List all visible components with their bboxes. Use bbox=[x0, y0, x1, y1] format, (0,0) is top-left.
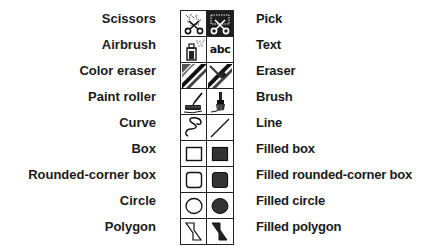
tool-airbrush[interactable] bbox=[181, 37, 207, 63]
brush-icon bbox=[208, 90, 232, 114]
tool-circle[interactable] bbox=[181, 193, 207, 219]
polygon-icon bbox=[182, 220, 206, 244]
line-icon bbox=[208, 116, 232, 140]
label-pick: Pick bbox=[256, 9, 423, 35]
tool-polygon[interactable] bbox=[181, 219, 207, 245]
label-box: Box bbox=[0, 139, 156, 165]
circle-icon bbox=[182, 194, 206, 218]
tool-pick[interactable] bbox=[207, 11, 233, 37]
eraser-icon bbox=[208, 64, 232, 88]
label-scissors: Scissors bbox=[0, 9, 156, 35]
tool-filled-polygon[interactable] bbox=[207, 219, 233, 245]
label-filled-rounded-corner-box: Filled rounded-corner box bbox=[256, 165, 423, 191]
airbrush-icon bbox=[182, 38, 206, 62]
tool-color-eraser[interactable] bbox=[181, 63, 207, 89]
paint-roller-icon bbox=[182, 90, 206, 114]
filled-box-icon bbox=[208, 142, 232, 166]
paint-toolbox: abc bbox=[180, 10, 234, 245]
tool-rounded-corner-box[interactable] bbox=[181, 167, 207, 193]
tool-filled-circle[interactable] bbox=[207, 193, 233, 219]
tool-filled-rounded-corner-box[interactable] bbox=[207, 167, 233, 193]
label-filled-circle: Filled circle bbox=[256, 191, 423, 217]
filled-circle-icon bbox=[208, 194, 232, 218]
label-curve: Curve bbox=[0, 113, 156, 139]
tool-line[interactable] bbox=[207, 115, 233, 141]
tool-brush[interactable] bbox=[207, 89, 233, 115]
label-text: Text bbox=[256, 35, 423, 61]
scissors-icon bbox=[182, 12, 206, 36]
box-icon bbox=[182, 142, 206, 166]
label-eraser: Eraser bbox=[256, 61, 423, 87]
tool-eraser[interactable] bbox=[207, 63, 233, 89]
filled-rounded-box-icon bbox=[208, 168, 232, 192]
curve-icon bbox=[182, 116, 206, 140]
tool-box[interactable] bbox=[181, 141, 207, 167]
label-paint-roller: Paint roller bbox=[0, 87, 156, 113]
label-color-eraser: Color eraser bbox=[0, 61, 156, 87]
left-labels: Scissors Airbrush Color eraser Paint rol… bbox=[0, 9, 156, 243]
label-circle: Circle bbox=[0, 191, 156, 217]
label-filled-polygon: Filled polygon bbox=[256, 217, 423, 243]
tool-scissors[interactable] bbox=[181, 11, 207, 37]
label-rounded-corner-box: Rounded-corner box bbox=[0, 165, 156, 191]
rounded-box-icon bbox=[182, 168, 206, 192]
text-icon: abc bbox=[210, 43, 230, 56]
label-line: Line bbox=[256, 113, 423, 139]
label-filled-box: Filled box bbox=[256, 139, 423, 165]
right-labels: Pick Text Eraser Brush Line Filled box F… bbox=[256, 9, 423, 243]
filled-polygon-icon bbox=[208, 220, 232, 244]
tool-text[interactable]: abc bbox=[207, 37, 233, 63]
label-brush: Brush bbox=[256, 87, 423, 113]
tool-filled-box[interactable] bbox=[207, 141, 233, 167]
label-airbrush: Airbrush bbox=[0, 35, 156, 61]
tool-paint-roller[interactable] bbox=[181, 89, 207, 115]
label-polygon: Polygon bbox=[0, 217, 156, 243]
pick-icon bbox=[208, 12, 232, 36]
color-eraser-icon bbox=[182, 64, 206, 88]
tool-curve[interactable] bbox=[181, 115, 207, 141]
